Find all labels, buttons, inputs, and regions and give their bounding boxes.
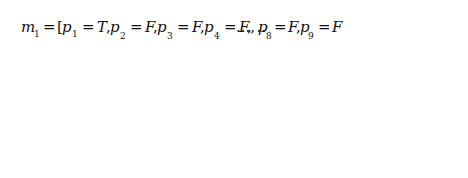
eq-sign: =: [318, 18, 331, 36]
sub-1: 1: [72, 29, 78, 39]
place-p1: p: [62, 18, 72, 36]
ellipsis: ...,: [236, 18, 255, 36]
place-p3: p: [157, 18, 167, 36]
sub-3: 3: [167, 31, 173, 41]
marking-m1-right: ..., p 8 = F , p 9 = F: [236, 14, 465, 42]
place-p2: p: [110, 18, 120, 36]
eq-sign: =: [82, 18, 95, 36]
petri-net-diagram: m 1 = [ p 1 = T , p 2 = F , p 3 = F , p …: [0, 0, 468, 178]
eq-sign: =: [177, 18, 190, 36]
sub-8: 8: [266, 31, 272, 41]
sub-2: 2: [120, 31, 126, 41]
diagram-svg: m 1 = [ p 1 = T , p 2 = F , p 3 = F , p …: [0, 0, 468, 178]
m1-subscript: 1: [34, 29, 40, 39]
eq-sign: =: [43, 18, 56, 36]
value-false: F: [331, 18, 343, 36]
eq-sign: =: [130, 18, 143, 36]
place-p4: p: [204, 18, 214, 36]
eq-sign: =: [274, 18, 287, 36]
sub-9: 9: [308, 31, 314, 41]
eq-sign: =: [224, 18, 237, 36]
sub-4: 4: [214, 31, 220, 41]
